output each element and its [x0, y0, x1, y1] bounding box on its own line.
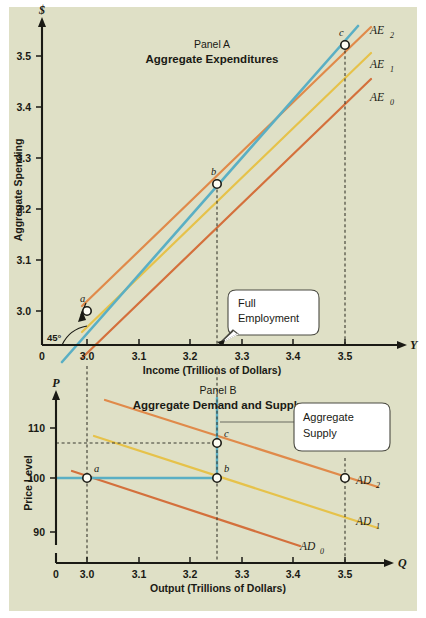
svg-text:AD: AD	[355, 515, 372, 527]
panel-a-xtick-3-4: 3.4	[286, 350, 301, 362]
panel-a-ytick-3-4: 3.4	[16, 101, 31, 113]
panel-b-point-c	[213, 439, 221, 447]
panel-b-xtick-3-5: 3.5	[338, 568, 353, 580]
panel-a-x-origin: 0	[39, 350, 45, 362]
panel-a-point-a-label: a	[80, 293, 85, 304]
panel-a-title: Aggregate Expenditures	[146, 53, 279, 65]
panel-a-label: Panel A	[194, 38, 230, 50]
svg-text:AE: AE	[369, 24, 384, 36]
panel-a-point-c-label: c	[339, 27, 344, 38]
svg-text:1: 1	[376, 522, 380, 531]
panel-b-title: Aggregate Demand and Supply	[133, 399, 304, 411]
svg-text:0: 0	[390, 98, 394, 107]
panel-a-x-axis-var: Y	[410, 338, 419, 352]
panel-a-xtick-3-5: 3.5	[338, 350, 353, 362]
panel-b-xtick-3-2: 3.2	[183, 568, 198, 580]
panel-b-ytick-110: 110	[28, 422, 45, 434]
panel-b-point-b-label: b	[224, 463, 229, 474]
panel-b-xtick-3-0: 3.0	[80, 568, 95, 580]
svg-text:AE: AE	[369, 58, 384, 70]
svg-text:0: 0	[320, 547, 324, 556]
panel-b-point-a	[83, 474, 91, 482]
aggregate-supply-line1: Aggregate	[303, 411, 354, 423]
aggregate-supply-line2: Supply	[303, 427, 337, 439]
panel-a-point-b	[213, 180, 221, 188]
panel-a-y-axis-title: Aggregate Spending	[12, 139, 24, 242]
panel-b-point-ad2-3-5	[341, 474, 349, 482]
panel-b-y-axis-var: P	[52, 376, 60, 390]
panel-a-point-b-label: b	[211, 166, 216, 177]
panel-a-xtick-3-0: 3.0	[80, 350, 95, 362]
panel-a-point-c	[341, 41, 349, 49]
panel-a-ytick-3-1: 3.1	[16, 254, 31, 266]
full-employment-line1: Full	[238, 297, 256, 309]
panel-b-x-origin: 0	[53, 568, 59, 580]
panel-b-x-axis-var: Q	[398, 556, 407, 570]
panel-a-xtick-3-1: 3.1	[132, 350, 147, 362]
panel-b-xtick-3-1: 3.1	[132, 568, 147, 580]
panel-b-point-a-label: a	[94, 463, 99, 474]
panel-b-x-axis-title: Output (Trillions of Dollars)	[150, 582, 286, 594]
panel-b-y-axis-title: Price Level	[22, 455, 34, 511]
panel-a-ytick-3-0: 3.0	[16, 305, 31, 317]
panel-a-xtick-3-3: 3.3	[235, 350, 250, 362]
figure-container: 45° 3.0 3.1 3.2 3.3 3.4 3.5	[0, 0, 426, 618]
panel-b-point-c-label: c	[224, 428, 229, 439]
panel-b-xtick-3-3: 3.3	[235, 568, 250, 580]
svg-text:AD: AD	[355, 474, 372, 486]
panel-a-ytick-3-5: 3.5	[16, 50, 31, 62]
svg-text:AD: AD	[299, 540, 316, 552]
panel-b-point-b	[213, 474, 221, 482]
svg-text:2: 2	[376, 481, 380, 490]
forty-five-degree-label: 45°	[47, 332, 62, 343]
panel-a-y-axis-var: $	[38, 3, 45, 17]
svg-text:AE: AE	[369, 91, 384, 103]
panel-a-x-axis-title: Income (Trillions of Dollars)	[143, 364, 281, 376]
panel-b-xtick-3-4: 3.4	[286, 568, 301, 580]
panel-b-ytick-90: 90	[33, 526, 45, 538]
svg-text:2: 2	[390, 31, 394, 40]
panel-b-label: Panel B	[200, 384, 237, 396]
panel-a-point-a	[83, 307, 91, 315]
panel-a-xtick-3-2: 3.2	[183, 350, 198, 362]
full-employment-line2: Employment	[238, 312, 299, 324]
svg-text:1: 1	[390, 65, 394, 74]
